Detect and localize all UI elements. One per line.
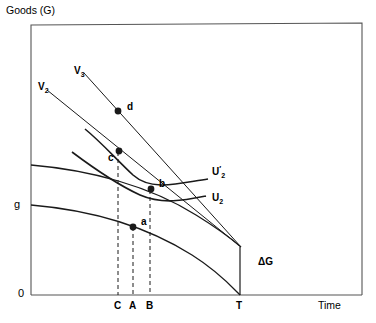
data-point-d[interactable] xyxy=(115,108,122,115)
data-point-c[interactable] xyxy=(116,148,123,155)
curve-label-v3: V3 xyxy=(74,66,85,78)
point-label-b: b xyxy=(159,179,165,189)
x-tick-c: C xyxy=(114,301,121,311)
curve-label-u2: U2 xyxy=(212,193,223,205)
point-label-c: c xyxy=(108,153,114,163)
y-level-label-g: g xyxy=(14,199,20,210)
delta-g: ΔG xyxy=(258,257,273,267)
ppf-curve-lower xyxy=(31,205,240,295)
point-label-d: d xyxy=(127,102,133,112)
y-axis-title: Goods (G) xyxy=(6,5,55,16)
indifference-curve-u2 xyxy=(72,152,206,201)
x-tick-b: B xyxy=(146,301,153,311)
x-tick-a: A xyxy=(129,301,136,311)
data-point-b[interactable] xyxy=(148,186,155,193)
x-tick-t: T xyxy=(236,301,242,311)
data-point-a[interactable] xyxy=(130,224,137,231)
point-label-a: a xyxy=(141,217,147,227)
origin-label: 0 xyxy=(18,288,24,299)
diagram-svg xyxy=(0,0,376,323)
diagram-canvas: Goods (G) Time 0 g CABT abcd V2V3U′2U2 Δ… xyxy=(0,0,376,323)
curve-label-v2: V2 xyxy=(38,82,49,94)
curve-label-u2prime: U′2 xyxy=(212,165,225,179)
x-axis-title: Time xyxy=(318,300,341,311)
